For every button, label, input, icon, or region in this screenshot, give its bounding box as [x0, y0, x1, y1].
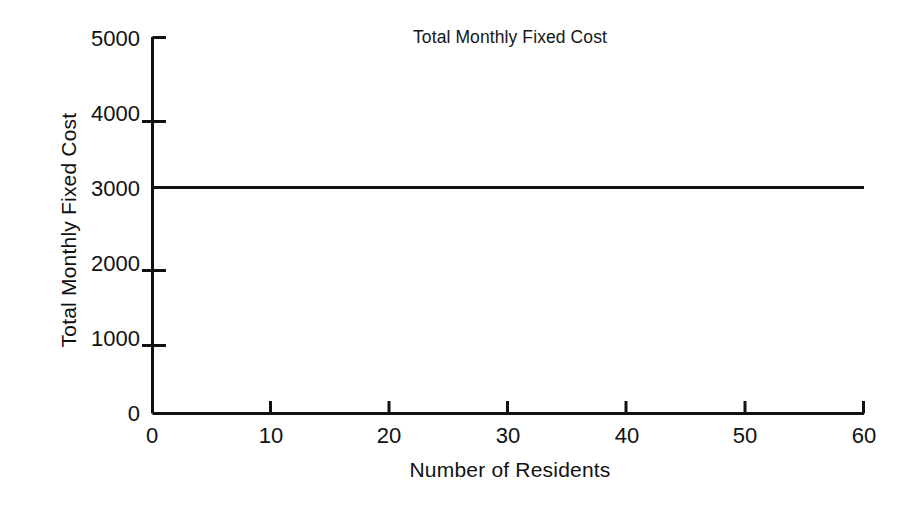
plot-area: [0, 0, 919, 510]
x-axis-ticks: [271, 401, 864, 414]
chart-figure: Total Monthly Fixed Cost Total Monthly F…: [0, 0, 919, 510]
